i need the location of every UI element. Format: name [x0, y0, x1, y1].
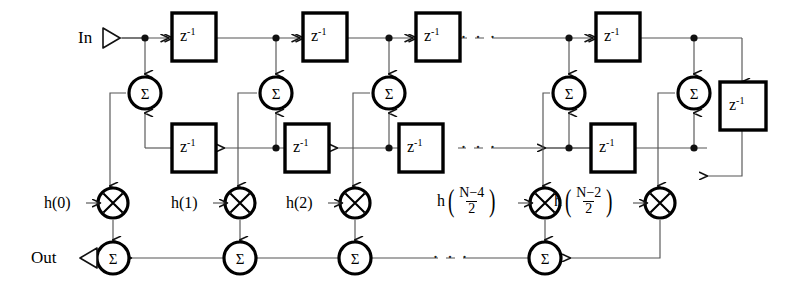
tap-dot [385, 34, 392, 41]
coefficient-label-h2: h(2) [286, 195, 313, 211]
tap-dot [385, 144, 392, 151]
ellipsis: · · · [461, 137, 498, 157]
tap-dot [565, 34, 572, 41]
adder-2-output-path [353, 93, 370, 186]
paren-close: ) [606, 189, 612, 213]
adder-symbol: Σ [236, 251, 245, 267]
adder-symbol: Σ [109, 251, 118, 267]
tap-dot [141, 34, 148, 41]
adder-0-output-path [110, 93, 126, 186]
adder-symbol: Σ [141, 86, 150, 102]
output-label: Out [31, 249, 57, 266]
adder-symbol: Σ [565, 86, 574, 102]
coefficient-label-h-n-minus-4-over-2: h ( N−4 2 ) [437, 186, 498, 216]
delay-block-label: z-1 [599, 138, 614, 155]
coefficient-label-h-n-minus-2-over-2: h ( N−2 2 ) [554, 186, 615, 216]
delay-block-label: z-1 [729, 96, 744, 113]
fraction-numerator: N−2 [574, 186, 603, 201]
adder-symbol: Σ [541, 251, 550, 267]
ellipsis: · · · [433, 247, 470, 267]
fraction-denominator: 2 [466, 201, 477, 217]
coefficient-label-h1: h(1) [171, 195, 198, 211]
output-terminal-arrowhead [80, 248, 97, 268]
adder-4-output-path [658, 93, 675, 186]
delay-block-label: z-1 [180, 27, 195, 44]
delay-block-label: z-1 [311, 27, 326, 44]
adder-1-output-path [238, 93, 257, 186]
multiplier[interactable] [98, 188, 128, 218]
delay-block-label: z-1 [293, 138, 308, 155]
paren-open: ( [448, 189, 454, 213]
adder-3-output-path [543, 93, 550, 186]
input-label: In [78, 29, 92, 46]
coefficient-label-h0: h(0) [44, 195, 71, 211]
paren-close: ) [489, 189, 495, 213]
upper-adders [129, 77, 710, 109]
adder-symbol: Σ [351, 251, 360, 267]
input-terminal-arrowhead [103, 28, 120, 48]
fir-filter-signal-flow-graph: Σ Σ Σ Σ Σ Σ Σ Σ Σ · · · · · · · · · [0, 0, 797, 292]
diagram-canvas: Σ Σ Σ Σ Σ Σ Σ Σ Σ · · · · · · · · · z-1 … [0, 0, 797, 292]
fraction-denominator: 2 [583, 201, 594, 217]
adder-symbol: Σ [272, 86, 281, 102]
tap-dot [272, 144, 279, 151]
fraction-numerator: N−4 [457, 186, 486, 201]
coefficient-prefix: h [554, 193, 562, 209]
tap-dot [690, 144, 697, 151]
coefficient-prefix: h [437, 193, 445, 209]
multiplier[interactable] [225, 188, 255, 218]
delay-block-label: z-1 [180, 138, 195, 155]
last-multiplier-path [570, 220, 660, 258]
paren-open: ( [565, 189, 571, 213]
multiplier[interactable] [340, 188, 370, 218]
delay-block-label: z-1 [407, 138, 422, 155]
tap-dot [690, 34, 697, 41]
ellipsis: · · · [461, 27, 498, 47]
delay-block-label: z-1 [424, 27, 439, 44]
tap-dot [565, 144, 572, 151]
multiplier[interactable] [645, 188, 675, 218]
multiplier-to-output-adder [113, 220, 545, 240]
tap-dot [272, 34, 279, 41]
adder-symbol: Σ [385, 86, 394, 102]
adder-sigma-glyphs: Σ Σ Σ Σ Σ Σ Σ Σ Σ [109, 86, 699, 267]
delay-block-label: z-1 [604, 27, 619, 44]
adder-symbol: Σ [690, 86, 699, 102]
